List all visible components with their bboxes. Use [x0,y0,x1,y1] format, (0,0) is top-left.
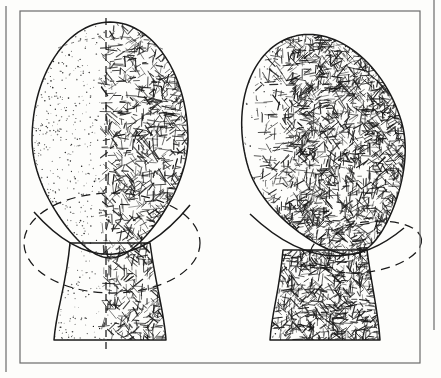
figure-plate [0,0,441,378]
illustration-canvas [0,0,441,378]
